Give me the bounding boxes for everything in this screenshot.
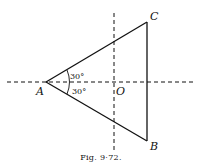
figure-caption: Fig. 9·72. (80, 153, 122, 162)
point-label-A: A (35, 85, 44, 98)
side-AC (46, 22, 147, 82)
angle-label-lower: 30° (72, 87, 86, 96)
angle-label-upper: 30° (70, 72, 84, 81)
point-label-O: O (116, 85, 125, 98)
point-label-B: B (149, 140, 158, 153)
side-AB (46, 82, 147, 141)
point-label-C: C (150, 10, 159, 23)
diagram-canvas: 30° 30° A O C B Fig. 9·72. (0, 0, 203, 164)
